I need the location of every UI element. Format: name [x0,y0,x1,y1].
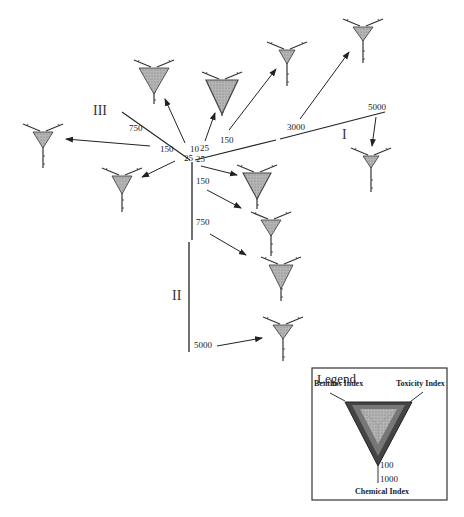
legend: Legend Benthos Index Toxicity Index 100 … [312,368,447,500]
triad-glyph-II-150 [251,212,291,256]
legend-benthos-label: Benthos Index [314,379,363,388]
label-I-5000: 5000 [368,102,387,112]
triad-glyph-center-right [237,165,277,209]
legend-chemical-label: Chemical Index [355,487,409,496]
label-III-750: 750 [129,123,143,133]
triad-glyph-left [102,168,142,212]
triad-glyph-II-750 [261,257,301,301]
label-II-5000: 5000 [194,340,213,350]
triad-glyph-upper-left [134,60,174,104]
sediment-quality-triad-diagram: 750 150 10 25 25 25 150 3000 5000 150 75… [0,0,464,517]
label-II-150: 150 [196,176,210,186]
transect-label-II: II [172,288,182,303]
transect-label-III: III [93,103,107,118]
triad-glyph-II-5000 [263,317,303,361]
label-III-150: 150 [160,144,174,154]
legend-tick-100: 100 [380,460,394,470]
legend-toxicity-label: Toxicity Index [396,379,445,388]
label-I-3000: 3000 [287,122,306,132]
triad-glyph-upper-right [267,42,307,86]
triad-glyph-right-I [351,148,391,192]
legend-tick-1000: 1000 [380,474,399,484]
label-center-25-a: 25 [200,143,210,153]
label-II-750: 750 [196,217,210,227]
label-center-25-b: 25 [184,153,194,163]
label-center-25-c: 25 [196,154,206,164]
triad-glyph-far-left [23,124,63,168]
triad-glyph-upper-mid [202,72,242,116]
transect-label-I: I [342,127,347,142]
triad-glyph-top-right [343,19,383,63]
label-I-150: 150 [220,135,234,145]
